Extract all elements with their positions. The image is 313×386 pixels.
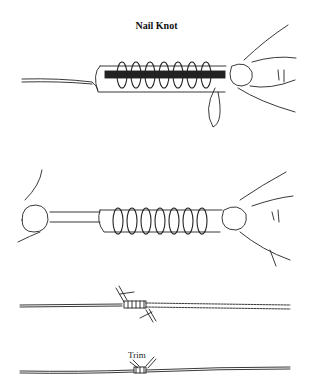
nail-knot-illustration [0,0,313,386]
trim-label: Trim [128,350,146,360]
step-2-tighten-coils [18,170,293,266]
step-3-knot-tightened [20,286,290,322]
step-4-trimmed-knot [20,357,290,373]
step-1-coil-on-nail [22,25,296,127]
